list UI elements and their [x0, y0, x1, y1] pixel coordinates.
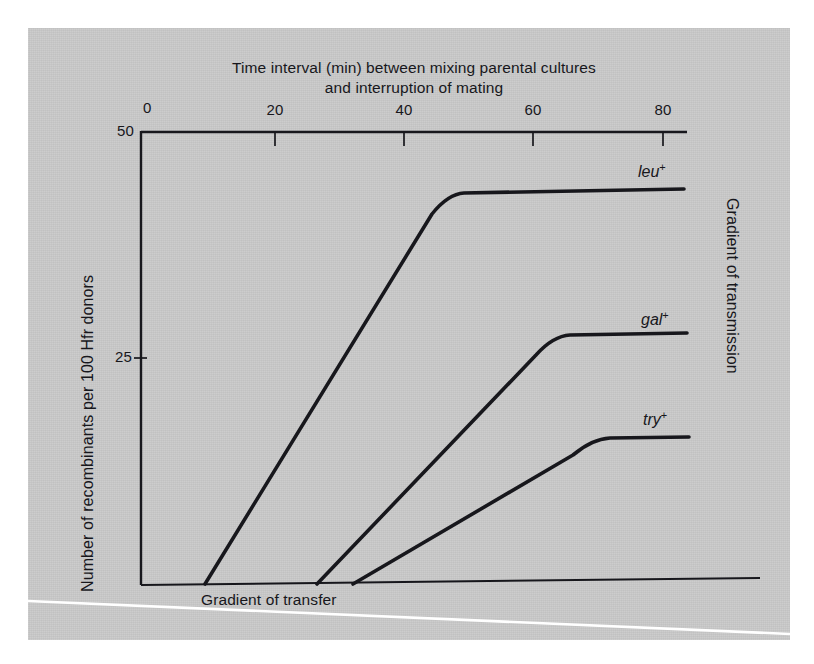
x-tick-label-60: 60 — [524, 101, 541, 118]
curve-label-leu: leu+ — [638, 163, 666, 181]
curve-label-try: try+ — [643, 411, 667, 429]
y-axis-title-right: Gradient of transmission — [723, 198, 741, 498]
x-tick-label-20: 20 — [266, 101, 283, 118]
curve-label-try-text: try — [643, 411, 661, 428]
chart-title: Time interval (min) between mixing paren… — [141, 58, 687, 98]
chart-title-line-1: Time interval (min) between mixing paren… — [141, 58, 687, 78]
y-axis-title-left: Number of recombinants per 100 Hfr donor… — [79, 122, 97, 592]
y-tick-label-50: 50 — [102, 122, 134, 139]
gradient-of-transfer-note: Gradient of transfer — [201, 591, 337, 609]
curve-gal — [317, 333, 687, 584]
curve-label-leu-superscript: + — [659, 161, 665, 173]
chart-title-line-2: and interruption of mating — [141, 78, 687, 98]
scan-highlight-line — [28, 601, 790, 634]
curve-label-gal-superscript: + — [662, 309, 668, 321]
curve-label-gal-text: gal — [641, 311, 662, 328]
figure-container: Time interval (min) between mixing paren… — [0, 0, 814, 664]
curve-try — [353, 437, 689, 584]
curve-label-gal: gal+ — [641, 311, 669, 329]
x-tick-label-80: 80 — [654, 101, 671, 118]
chart-vector-layer — [0, 0, 814, 664]
baseline-axis — [141, 578, 760, 585]
y-tick-label-25: 25 — [100, 348, 132, 365]
x-tick-label-0: 0 — [143, 99, 152, 116]
curve-leu — [205, 189, 684, 584]
x-tick-label-40: 40 — [395, 101, 412, 118]
curve-label-try-superscript: + — [661, 409, 667, 421]
curve-label-leu-text: leu — [638, 163, 659, 180]
